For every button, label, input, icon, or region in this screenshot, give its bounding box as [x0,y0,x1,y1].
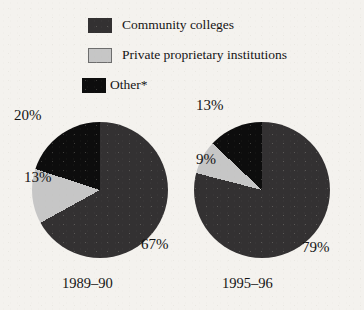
pie-b-value-community: 79% [302,240,330,255]
legend-label-other: Other* [110,78,148,92]
pie-a-year-label: 1989–90 [62,276,113,291]
light-gray-swatch-icon [88,48,112,63]
chart-legend: Community colleges Private proprietary i… [88,14,287,104]
pie-b-value-private: 9% [196,152,216,167]
pie-b-year-label: 1995–96 [222,276,273,291]
legend-item-community-colleges: Community colleges [88,14,287,36]
chart-canvas: Community colleges Private proprietary i… [0,0,364,310]
dark-gray-swatch-icon [88,18,112,33]
legend-item-other: Other* [82,74,287,96]
pie-a-value-other: 20% [14,108,42,123]
black-swatch-icon [82,78,106,93]
legend-label-community-colleges: Community colleges [122,18,234,32]
pie-a-value-private: 13% [24,170,52,185]
legend-label-private-proprietary-institutions: Private proprietary institutions [122,48,287,62]
legend-item-private-proprietary-institutions: Private proprietary institutions [88,44,287,66]
pie-chart-1995-96 [194,122,330,258]
pie-a-value-community: 67% [141,237,169,252]
pie-b-value-other: 13% [196,98,224,113]
